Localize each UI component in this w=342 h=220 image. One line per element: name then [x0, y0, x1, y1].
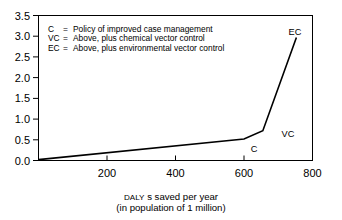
- legend-separator: =: [63, 43, 68, 53]
- point-label-vc: VC: [282, 129, 295, 139]
- y-tick-label: 2.0: [15, 72, 30, 84]
- legend-separator: =: [63, 33, 68, 43]
- legend-key-ec: EC: [48, 43, 60, 53]
- chart-container: 0.0 0.5 1.0 1.5 2.0 2.5 3.0 3.5 200 400 …: [0, 0, 342, 220]
- legend-description-vc: Above, plus chemical vector control: [73, 33, 205, 43]
- y-tick-label: 3.5: [15, 10, 30, 22]
- x-tick-label: 600: [235, 167, 253, 179]
- x-tick-label: 800: [303, 167, 321, 179]
- line-chart: 0.0 0.5 1.0 1.5 2.0 2.5 3.0 3.5 200 400 …: [0, 0, 342, 220]
- y-tick-label: 0.0: [15, 155, 30, 167]
- legend-separator: =: [63, 24, 68, 34]
- y-tick-label: 3.0: [15, 30, 30, 42]
- y-tick-label: 2.5: [15, 51, 30, 63]
- y-tick-label: 1.5: [15, 92, 30, 104]
- legend-key-c: C: [48, 24, 54, 34]
- x-tick-label: 200: [98, 167, 116, 179]
- x-tick-label: 400: [166, 167, 184, 179]
- legend: C = Policy of improved case management V…: [48, 24, 224, 53]
- legend-description-c: Policy of improved case management: [73, 24, 213, 34]
- x-axis-title: DALY s saved per year (in population of …: [116, 191, 225, 213]
- y-tick-label: 0.5: [15, 134, 30, 146]
- svg-text:DALY s saved per year: DALY s saved per year: [124, 191, 219, 202]
- x-axis-title-rest: s saved per year: [147, 191, 219, 202]
- y-tick-label: 1.0: [15, 113, 30, 125]
- x-axis-title-acronym: DALY: [124, 193, 145, 202]
- legend-description-ec: Above, plus environmental vector control: [73, 43, 224, 53]
- point-label-ec: EC: [289, 27, 302, 37]
- legend-key-vc: VC: [48, 33, 60, 43]
- point-label-c: C: [251, 144, 258, 154]
- x-axis-title-line2: (in population of 1 million): [116, 202, 225, 213]
